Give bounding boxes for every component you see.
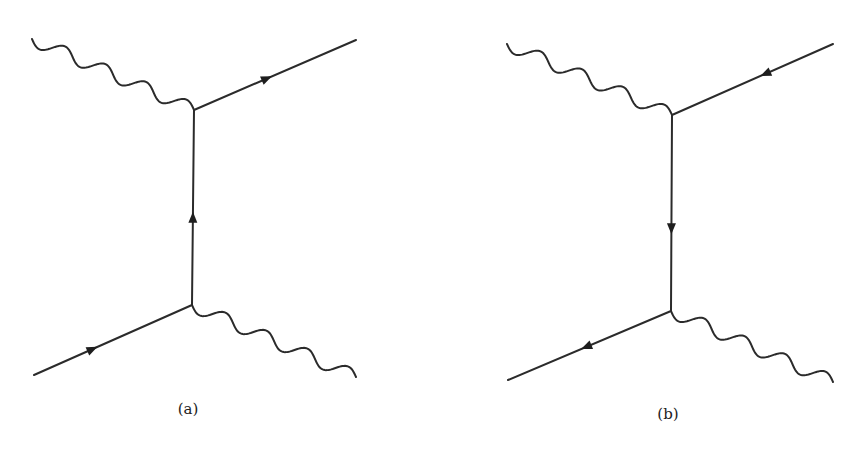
fermion-line-b-1 — [672, 44, 833, 115]
fermion-line-b-2 — [671, 115, 672, 311]
fermion-line-a-1 — [194, 40, 356, 110]
arrow-icon — [188, 212, 197, 223]
diagram-panel-b — [507, 44, 833, 382]
arrow-icon — [581, 341, 593, 349]
diagram-panel-a — [32, 39, 356, 377]
fermion-line-a-2 — [192, 110, 194, 305]
arrow-icon — [260, 76, 272, 84]
panel-label-b: (b) — [657, 405, 678, 423]
arrow-icon — [86, 347, 98, 356]
panel-label-a: (a) — [178, 400, 199, 418]
photon-line-b-2 — [671, 311, 833, 382]
arrow-icon — [667, 223, 676, 234]
photon-line-a-1 — [32, 39, 194, 110]
feynman-diagram-canvas — [0, 0, 858, 454]
fermion-line-a-3 — [34, 305, 192, 375]
photon-line-a-2 — [192, 305, 356, 377]
arrow-icon — [760, 67, 772, 76]
photon-line-b-1 — [507, 44, 672, 115]
